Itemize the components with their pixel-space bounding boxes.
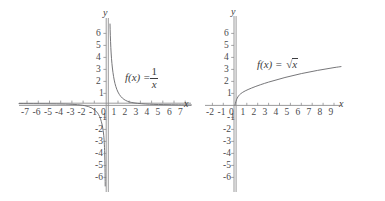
function-label-reciprocal: f(x) = 1 x bbox=[125, 66, 158, 91]
y-tick-label: -4 bbox=[95, 149, 103, 159]
x-tick-label: 8 bbox=[318, 108, 323, 118]
y-axis-label: y bbox=[231, 7, 235, 17]
y-tick-label: 1 bbox=[227, 89, 232, 99]
y-tick-label: -2 bbox=[223, 125, 231, 135]
x-tick-label: 4 bbox=[145, 108, 150, 118]
x-tick-label: -5 bbox=[44, 108, 52, 118]
x-tick-label: -1 bbox=[89, 108, 97, 118]
fraction-numerator: 1 bbox=[150, 66, 158, 78]
x-axis-label: x bbox=[184, 99, 188, 109]
y-tick-label: 2 bbox=[224, 77, 229, 87]
y-tick-label: 2 bbox=[96, 77, 101, 87]
x-tick-label: -3 bbox=[67, 108, 75, 118]
x-tick-label: 9 bbox=[329, 108, 334, 118]
y-tick-label: 6 bbox=[96, 29, 101, 39]
x-tick-label: 3 bbox=[263, 108, 268, 118]
y-tick-label: -1 bbox=[227, 113, 235, 123]
y-axis-label: y bbox=[103, 8, 107, 18]
x-tick-label: -4 bbox=[55, 108, 63, 118]
radical-sqrt-x: √x bbox=[285, 58, 298, 70]
x-tick-label: 5 bbox=[285, 108, 290, 118]
curve-sqrt-branch bbox=[235, 67, 341, 105]
y-tick-label: -1 bbox=[99, 113, 107, 123]
y-tick-label: -3 bbox=[95, 137, 103, 147]
figure-container: y x -7 -6 -5 -4 -3 -2 -1 0 1 2 3 4 5 6 7… bbox=[0, 0, 385, 201]
fraction-denominator: x bbox=[150, 79, 158, 91]
chart-reciprocal: y x -7 -6 -5 -4 -3 -2 -1 0 1 2 3 4 5 6 7… bbox=[0, 0, 192, 201]
x-tick-label: -2 bbox=[78, 108, 86, 118]
x-tick-label: 2 bbox=[123, 108, 128, 118]
chart-square-root: y x -2 -1 0 1 2 3 4 5 6 7 8 9 6 5 4 3 2 … bbox=[193, 0, 385, 201]
x-tick-label: -1 bbox=[218, 108, 226, 118]
radical-body: x bbox=[292, 58, 298, 70]
y-tick-label: -2 bbox=[95, 125, 103, 135]
x-tick-label: -7 bbox=[21, 108, 29, 118]
y-tick-label: 6 bbox=[224, 29, 229, 39]
y-tick-label: -6 bbox=[95, 173, 103, 183]
x-tick-label: 2 bbox=[252, 108, 257, 118]
x-tick-label: 6 bbox=[167, 108, 172, 118]
function-label-prefix: f(x) = bbox=[257, 58, 282, 70]
x-tick-label: 6 bbox=[296, 108, 301, 118]
fraction-one-over-x: 1 x bbox=[150, 66, 158, 91]
x-tick-label: 4 bbox=[274, 108, 279, 118]
y-tick-label: 1 bbox=[99, 89, 104, 99]
y-tick-label: -5 bbox=[223, 161, 231, 171]
y-tick-label: -4 bbox=[223, 149, 231, 159]
x-tick-label: 3 bbox=[134, 108, 139, 118]
x-tick-label: 7 bbox=[307, 108, 312, 118]
y-tick-label: -6 bbox=[223, 173, 231, 183]
x-tick-label: 7 bbox=[178, 108, 183, 118]
x-tick-label: 1 bbox=[112, 108, 117, 118]
y-tick-label: 5 bbox=[96, 41, 101, 51]
y-tick-label: 3 bbox=[96, 65, 101, 75]
x-axis-label: x bbox=[339, 99, 343, 109]
x-tick-label: 5 bbox=[156, 108, 161, 118]
y-tick-label: 3 bbox=[224, 65, 229, 75]
y-tick-label: 5 bbox=[224, 41, 229, 51]
x-tick-label: 1 bbox=[241, 108, 246, 118]
y-tick-label: -5 bbox=[95, 161, 103, 171]
function-label-square-root: f(x) = √x bbox=[257, 58, 298, 70]
y-tick-label: 4 bbox=[96, 53, 101, 63]
x-tick-label: -6 bbox=[33, 108, 41, 118]
function-label-prefix: f(x) = bbox=[125, 71, 150, 83]
y-tick-label: -3 bbox=[223, 137, 231, 147]
x-tick-label: -2 bbox=[206, 108, 214, 118]
y-tick-label: 4 bbox=[224, 53, 229, 63]
chart-square-root-canvas bbox=[193, 0, 385, 201]
